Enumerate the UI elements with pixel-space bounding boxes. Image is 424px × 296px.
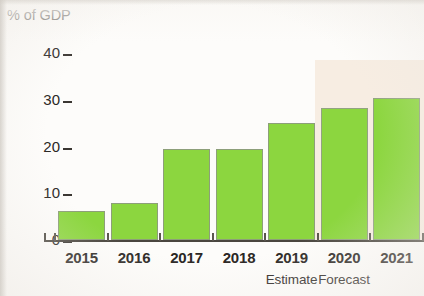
x-axis-tick-mark <box>54 233 56 241</box>
x-axis-tick-mark <box>107 233 109 241</box>
y-axis-tick-mark <box>63 194 72 196</box>
y-axis-tick-mark <box>63 148 72 150</box>
x-axis-tick-mark <box>159 233 161 241</box>
x-axis-tick-mark <box>369 233 371 241</box>
x-axis-tick-mark <box>212 233 214 241</box>
x-axis-label-2021: 2021 <box>366 249 424 266</box>
plot-area: 403020100 2015201620172018201920202021 E… <box>0 0 424 296</box>
x-axis-tick-mark <box>422 233 424 241</box>
bar-2020 <box>321 108 368 240</box>
bar-2018 <box>216 149 263 240</box>
x-axis-tick-mark <box>264 233 266 241</box>
y-axis-tick-mark <box>63 54 72 56</box>
bar-2021 <box>373 98 420 240</box>
y-axis-stub <box>44 233 46 242</box>
x-axis-sublabel-forecast: Forecast <box>305 272 384 287</box>
x-axis-tick-mark <box>317 233 319 241</box>
x-axis-line <box>44 240 424 242</box>
bar-2016 <box>111 203 158 240</box>
bar-2017 <box>163 149 210 240</box>
y-axis-tick-label: 30 <box>8 92 60 107</box>
y-axis-tick-mark <box>63 101 72 103</box>
bar-2019 <box>268 123 315 240</box>
chart-figure: 403020100 2015201620172018201920202021 E… <box>0 0 424 296</box>
bar-2015 <box>58 211 105 240</box>
chart-title: % of GDP <box>7 7 71 23</box>
y-axis-tick-label: 10 <box>8 185 60 200</box>
y-axis-tick-label: 40 <box>8 45 60 60</box>
y-axis-tick-label: 20 <box>8 139 60 154</box>
